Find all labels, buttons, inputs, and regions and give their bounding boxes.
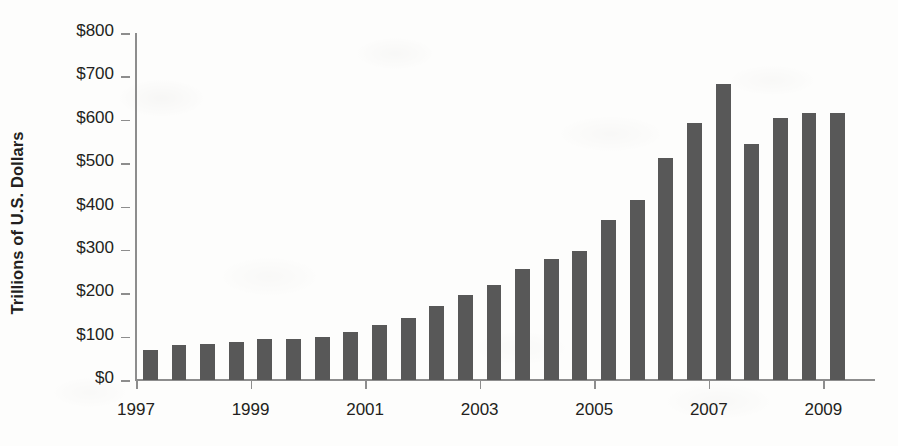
y-axis-tick-mark xyxy=(121,163,130,165)
x-axis-tick-label: 2009 xyxy=(804,400,842,420)
plot-area: $0$100$200$300$400$500$600$700$800 19971… xyxy=(136,33,852,380)
bar xyxy=(343,332,358,380)
y-axis-line xyxy=(135,33,137,380)
bar xyxy=(487,285,502,380)
y-axis-tick-label: $600 xyxy=(76,108,114,128)
bar xyxy=(286,339,301,380)
y-axis-tick-label: $400 xyxy=(76,195,114,215)
x-axis-tick-label: 2001 xyxy=(346,400,384,420)
y-axis-tick-mark xyxy=(121,337,130,339)
bar xyxy=(401,318,416,380)
bar xyxy=(658,158,673,381)
x-axis-tick-mark xyxy=(594,380,596,389)
x-axis-tick-label: 2003 xyxy=(461,400,499,420)
bar xyxy=(744,144,759,380)
y-axis-tick-label: $0 xyxy=(95,368,114,388)
x-axis-tick-label: 1999 xyxy=(232,400,270,420)
bar xyxy=(630,200,645,380)
bar xyxy=(372,325,387,380)
y-axis-tick-label: $100 xyxy=(76,325,114,345)
bar xyxy=(229,342,244,380)
bar-chart: Trillions of U.S. Dollars $0$100$200$300… xyxy=(0,0,898,446)
y-axis-tick-mark xyxy=(121,250,130,252)
x-axis-tick-label: 2007 xyxy=(690,400,728,420)
bar xyxy=(458,295,473,380)
x-axis-tick-mark xyxy=(365,380,367,389)
bar xyxy=(143,350,158,380)
bar xyxy=(601,220,616,380)
x-axis-tick-label: 1997 xyxy=(117,400,155,420)
x-axis-tick-mark xyxy=(823,380,825,389)
y-axis-tick-label: $800 xyxy=(76,21,114,41)
y-axis-tick-label: $700 xyxy=(76,64,114,84)
x-axis-tick-mark xyxy=(251,380,253,389)
bar xyxy=(572,251,587,380)
x-axis-tick-label: 2005 xyxy=(575,400,613,420)
y-axis-tick-mark xyxy=(121,207,130,209)
bar xyxy=(687,123,702,380)
bar xyxy=(172,345,187,380)
y-axis-tick-mark xyxy=(121,33,130,35)
bar xyxy=(257,339,272,380)
x-axis-line xyxy=(135,379,875,381)
x-axis-tick-mark xyxy=(136,380,138,389)
bar xyxy=(716,84,731,380)
bar xyxy=(515,269,530,380)
y-axis-tick-mark xyxy=(121,293,130,295)
bar xyxy=(200,344,215,380)
y-axis-tick-mark xyxy=(121,76,130,78)
bar xyxy=(315,337,330,380)
y-axis-tick-mark xyxy=(121,120,130,122)
bar xyxy=(802,113,817,380)
bar xyxy=(544,259,559,380)
bar xyxy=(830,113,845,380)
bar xyxy=(773,118,788,380)
y-axis-tick-mark xyxy=(121,380,130,382)
bar xyxy=(429,306,444,380)
x-axis-tick-mark xyxy=(480,380,482,389)
y-axis-title: Trillions of U.S. Dollars xyxy=(0,0,52,446)
y-axis-tick-label: $200 xyxy=(76,281,114,301)
y-axis-tick-label: $500 xyxy=(76,151,114,171)
y-axis-tick-label: $300 xyxy=(76,238,114,258)
x-axis-tick-mark xyxy=(709,380,711,389)
